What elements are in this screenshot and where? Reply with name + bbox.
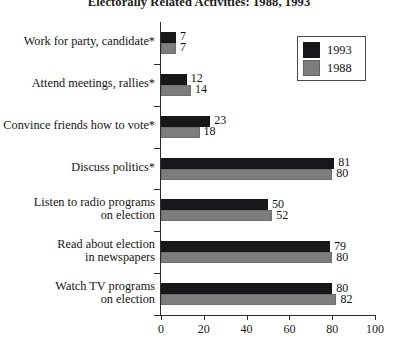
x-axis-tick: [289, 315, 290, 320]
y-axis-group-tick: [154, 64, 161, 65]
category-label: Listen to radio programs on election: [0, 196, 155, 223]
bar-1988: [161, 294, 336, 305]
bar-1993: [161, 32, 176, 43]
category-label: Discuss politics*: [0, 161, 155, 175]
x-axis-tick: [247, 315, 248, 320]
bar-value-label: 14: [195, 84, 207, 95]
category-label: Read about election in newspapers: [0, 238, 155, 265]
y-axis-group-tick: [154, 106, 161, 107]
bar-1988: [161, 169, 332, 180]
swatch-1993-icon: [303, 42, 320, 58]
x-axis-tick-label: 40: [227, 322, 267, 337]
x-axis-tick-label: 20: [184, 322, 224, 337]
bar-1993: [161, 116, 210, 127]
x-axis-tick-label: 0: [141, 322, 181, 337]
category-label: Convince friends how to vote*: [0, 119, 155, 133]
bar-value-label: 80: [336, 168, 348, 179]
chart-legend: 19931988: [297, 36, 366, 81]
x-axis-tick: [161, 315, 162, 320]
category-label: Work for party, candidate*: [0, 35, 155, 49]
bar-1993: [161, 158, 334, 169]
x-axis-tick-label: 80: [312, 322, 352, 337]
bar-value-label: 52: [276, 210, 288, 221]
legend-label: 1993: [327, 43, 352, 57]
x-axis-tick: [332, 315, 333, 320]
y-axis-group-tick: [154, 148, 161, 149]
bar-1988: [161, 252, 332, 263]
y-axis-group-tick: [154, 189, 161, 190]
legend-label: 1988: [327, 61, 352, 75]
bar-1993: [161, 74, 187, 85]
x-axis-tick-label: 60: [269, 322, 309, 337]
x-axis-tick: [375, 315, 376, 320]
bar-1988: [161, 210, 272, 221]
x-axis-tick-label: 100: [355, 322, 395, 337]
bar-1993: [161, 199, 268, 210]
y-axis-group-tick: [154, 231, 161, 232]
bar-value-label: 80: [336, 252, 348, 263]
bar-value-label: 18: [204, 126, 216, 137]
category-label: Watch TV programs on election: [0, 280, 155, 307]
bar-1988: [161, 85, 191, 96]
category-label: Attend meetings, rallies*: [0, 77, 155, 91]
x-axis-line: [160, 315, 375, 316]
bar-value-label: 82: [340, 294, 352, 305]
bar-1988: [161, 43, 176, 54]
bar-1993: [161, 241, 330, 252]
bar-value-label: 7: [180, 42, 186, 53]
y-axis-group-tick: [154, 315, 161, 316]
bar-1993: [161, 283, 332, 294]
bar-1988: [161, 127, 200, 138]
swatch-1988-icon: [303, 60, 320, 76]
y-axis-group-tick: [154, 273, 161, 274]
x-axis-tick: [204, 315, 205, 320]
bar-value-label: 23: [214, 115, 226, 126]
